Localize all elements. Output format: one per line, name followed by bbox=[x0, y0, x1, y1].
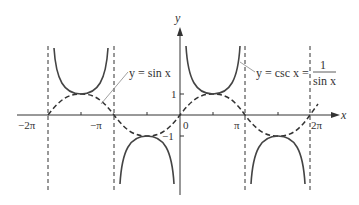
tick-label-one: 1 bbox=[171, 88, 177, 100]
csc-label: y = csc x = bbox=[256, 66, 309, 80]
axes bbox=[17, 27, 340, 195]
x-axis-label: x bbox=[340, 108, 347, 122]
csc-fraction-denominator: sin x bbox=[313, 74, 336, 88]
csc-sin-graph: x y −2π −π 0 π 2π 1 −1 y = sin x y = csc… bbox=[0, 0, 359, 205]
tick-label-negone: −1 bbox=[162, 130, 174, 142]
tick-label-zero: 0 bbox=[183, 119, 189, 131]
sin-label: y = sin x bbox=[129, 66, 171, 80]
y-axis-arrow-icon bbox=[177, 27, 183, 36]
csc-fraction-numerator: 1 bbox=[320, 58, 326, 72]
csc-branch-4 bbox=[251, 136, 305, 184]
csc-branch-1 bbox=[54, 48, 108, 94]
tick-label-pi: π bbox=[234, 119, 240, 131]
tick-label-negpi: −π bbox=[90, 119, 102, 131]
csc-branch-3 bbox=[186, 46, 240, 94]
tick-label-2pi: 2π bbox=[311, 119, 323, 131]
x-axis-arrow-icon bbox=[331, 112, 340, 118]
csc-branch-2 bbox=[120, 136, 174, 184]
csc-leader-line bbox=[240, 62, 255, 72]
tick-label-neg2pi: −2π bbox=[18, 119, 36, 131]
y-axis-label: y bbox=[174, 11, 181, 25]
